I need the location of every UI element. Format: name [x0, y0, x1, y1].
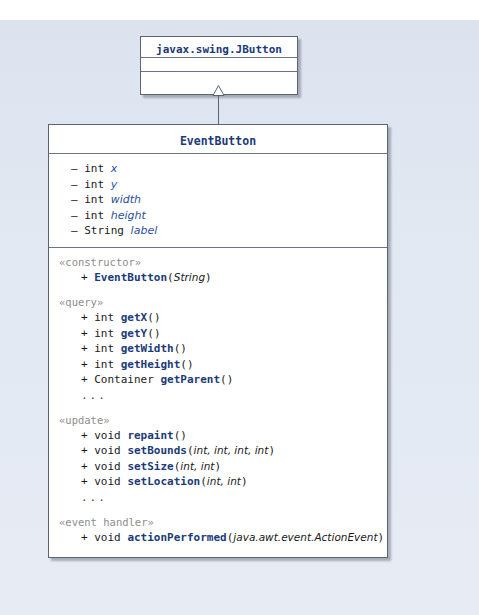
operation-parameters: int, int — [207, 475, 241, 487]
operation-paren-close: ) — [154, 311, 161, 324]
operation-paren-open: ( — [187, 444, 194, 457]
operation-row: + int getX() — [49, 310, 387, 326]
group-spacer — [49, 285, 387, 294]
operation-paren-close: ) — [241, 475, 248, 488]
operation-paren-open: ( — [200, 475, 207, 488]
attribute-type: String — [84, 224, 130, 237]
operation-return-type: int — [94, 358, 121, 371]
operation-group-stereotype: «constructor» — [49, 254, 387, 270]
operation-name: actionPerformed — [127, 531, 226, 544]
operation-name: getWidth — [121, 342, 174, 355]
operation-visibility: + — [81, 475, 94, 488]
attribute-row: – int width — [49, 192, 387, 208]
operation-name: setBounds — [127, 444, 187, 457]
operation-return-type: void — [94, 460, 127, 473]
operation-return-type: void — [94, 475, 127, 488]
operation-paren-close: ) — [187, 358, 194, 371]
operation-group-stereotype: «update» — [49, 412, 387, 428]
operation-row: + void setSize(int, int) — [49, 459, 387, 475]
operation-paren-close: ) — [154, 327, 161, 340]
operation-row: + int getWidth() — [49, 341, 387, 357]
operation-paren-open: ( — [220, 373, 227, 386]
attribute-name: width — [111, 193, 141, 206]
operation-visibility: + — [81, 444, 94, 457]
operation-group-stereotype: «event handler» — [49, 514, 387, 530]
operation-row: + void setBounds(int, int, int, int) — [49, 443, 387, 459]
operation-paren-close: ) — [268, 444, 275, 457]
operation-return-type: Container — [94, 373, 160, 386]
operation-paren-close: ) — [378, 531, 385, 544]
operation-visibility: + — [81, 358, 94, 371]
group-spacer — [49, 403, 387, 412]
operation-visibility: + — [81, 531, 94, 544]
attribute-row: – String label — [49, 223, 387, 239]
diagram-canvas: javax.swing.JButton EventButton – int x–… — [0, 0, 479, 615]
attribute-type: int — [84, 178, 111, 191]
operation-return-type: int — [94, 342, 121, 355]
subclass-operations-compartment: «constructor»+ EventButton(String)«query… — [49, 248, 387, 554]
operation-paren-open: ( — [180, 358, 187, 371]
attribute-type: int — [84, 162, 111, 175]
operation-name: getParent — [160, 373, 220, 386]
operation-paren-close: ) — [180, 342, 187, 355]
operation-visibility: + — [81, 342, 94, 355]
generalization-line — [218, 95, 219, 125]
attribute-row: – int y — [49, 177, 387, 193]
attribute-row: – int height — [49, 208, 387, 224]
operation-visibility: + — [81, 373, 94, 386]
attribute-name: height — [111, 209, 146, 222]
attribute-name: label — [131, 224, 158, 237]
superclass-name: javax.swing.JButton — [156, 43, 282, 56]
operation-row: + Container getParent() — [49, 372, 387, 388]
operation-paren-close: ) — [180, 429, 187, 442]
operation-row: + void repaint() — [49, 428, 387, 444]
operation-name: getX — [121, 311, 148, 324]
attribute-row: – int x — [49, 161, 387, 177]
operation-row: + void setLocation(int, int) — [49, 474, 387, 490]
operation-row: + int getY() — [49, 326, 387, 342]
attribute-type: int — [84, 209, 111, 222]
operation-group-stereotype: «query» — [49, 294, 387, 310]
operation-parameters: int, int — [180, 460, 214, 472]
generalization-arrow-icon — [212, 85, 225, 96]
operation-paren-close: ) — [214, 460, 221, 473]
operation-parameters: java.awt.event.ActionEvent — [233, 531, 377, 543]
operation-visibility: + — [81, 311, 94, 324]
operation-paren-open: ( — [147, 327, 154, 340]
operation-visibility: + — [81, 460, 94, 473]
superclass-name-compartment: javax.swing.JButton — [141, 37, 297, 58]
subclass-name-compartment: EventButton — [49, 125, 387, 154]
attribute-visibility: – — [71, 178, 84, 191]
operation-visibility: + — [81, 271, 94, 284]
group-spacer — [49, 505, 387, 514]
operation-name: setSize — [127, 460, 173, 473]
operation-paren-open: ( — [147, 311, 154, 324]
subclass-name: EventButton — [180, 134, 256, 148]
attribute-name: x — [111, 162, 118, 175]
attribute-name: y — [111, 178, 118, 191]
superclass-attributes-compartment — [141, 58, 297, 72]
operation-paren-close: ) — [205, 271, 212, 284]
operation-return-type: int — [94, 311, 121, 324]
operation-name: setLocation — [127, 475, 200, 488]
operation-return-type: void — [94, 531, 127, 544]
operation-name: getY — [121, 327, 148, 340]
attribute-type: int — [84, 193, 111, 206]
operation-row: + void actionPerformed(java.awt.event.Ac… — [49, 530, 387, 546]
operations-ellipsis: ... — [49, 490, 387, 505]
operation-return-type: void — [94, 429, 127, 442]
operation-row: + EventButton(String) — [49, 270, 387, 286]
attribute-visibility: – — [71, 162, 84, 175]
operation-name: EventButton — [94, 271, 167, 284]
operation-paren-open: ( — [167, 271, 174, 284]
attribute-visibility: – — [71, 224, 84, 237]
operation-parameters: int, int, int, int — [194, 444, 269, 456]
attribute-visibility: – — [71, 193, 84, 206]
subclass-box[interactable]: EventButton – int x– int y– int width– i… — [48, 124, 388, 558]
attribute-visibility: – — [71, 209, 84, 222]
subclass-attributes-compartment: – int x– int y– int width– int height– S… — [49, 154, 387, 248]
operation-visibility: + — [81, 429, 94, 442]
operation-visibility: + — [81, 327, 94, 340]
operation-return-type: int — [94, 327, 121, 340]
operation-row: + int getHeight() — [49, 357, 387, 373]
